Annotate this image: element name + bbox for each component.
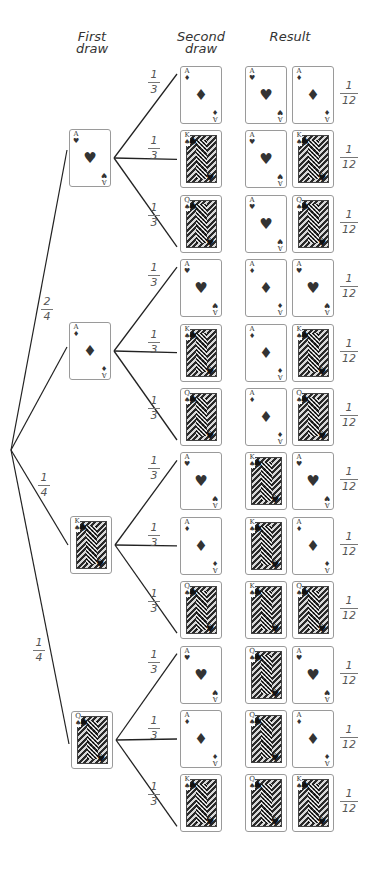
diamonds-icon: ♦ xyxy=(70,343,110,359)
branch-probability: 13 xyxy=(148,715,160,742)
card-index-bottom: A♦ xyxy=(212,752,218,766)
spades-icon: ♠ xyxy=(96,752,106,763)
card-a-hearts: A♥♥A♥ xyxy=(292,259,334,317)
denominator: 3 xyxy=(148,410,160,422)
card-index-bottom: A♥ xyxy=(101,171,107,185)
hearts-icon: ♥ xyxy=(246,87,286,103)
branch-line xyxy=(115,545,177,546)
hearts-icon: ♥ xyxy=(70,150,110,166)
card-index-bottom: A♥ xyxy=(212,301,218,315)
spades-icon: ♠ xyxy=(78,522,88,533)
numerator: 1 xyxy=(340,466,358,478)
spades-icon: ♠ xyxy=(253,458,263,469)
branch-line xyxy=(115,545,177,633)
numerator: 1 xyxy=(340,402,358,414)
card-index-bottom: A♥ xyxy=(277,108,283,122)
spades-icon: ♠ xyxy=(205,429,215,440)
card-k-spades: K♠♠♠ xyxy=(292,324,334,382)
card-index-top: A♦ xyxy=(296,68,302,82)
branch-probability: 13 xyxy=(148,395,160,422)
denominator: 3 xyxy=(148,150,160,162)
card-k-spades: K♠♠♠ xyxy=(292,130,334,188)
result-probability: 112 xyxy=(340,660,358,687)
numerator: 1 xyxy=(340,724,358,736)
hearts-icon: ♥ xyxy=(293,667,333,683)
denominator: 12 xyxy=(340,95,358,107)
branch-line xyxy=(115,460,177,545)
hearts-icon: ♥ xyxy=(293,280,333,296)
card-a-diamonds: A♦♦A♦ xyxy=(292,517,334,575)
spades-icon: ♠ xyxy=(188,201,198,212)
card-index-bottom: A♦ xyxy=(324,108,330,122)
diamonds-icon: ♦ xyxy=(246,345,286,361)
hearts-icon: ♥ xyxy=(246,216,286,232)
result-probability: 112 xyxy=(340,338,358,365)
denominator: 3 xyxy=(148,217,160,229)
numerator: 1 xyxy=(148,262,160,274)
card-index-bottom: A♦ xyxy=(277,366,283,380)
spades-icon: ♠ xyxy=(317,236,327,247)
numerator: 1 xyxy=(148,69,160,81)
denominator: 4 xyxy=(33,652,45,664)
card-index-bottom: A♥ xyxy=(212,494,218,508)
card-q-spades: Q♠♠♠ xyxy=(292,195,334,253)
denominator: 12 xyxy=(340,610,358,622)
card-q-spades: Q♠♠♠ xyxy=(245,710,287,768)
spades-icon: ♠ xyxy=(317,429,327,440)
diamonds-icon: ♦ xyxy=(246,280,286,296)
spades-icon: ♠ xyxy=(205,171,215,182)
card-a-hearts: A♥♥A♥ xyxy=(180,259,222,317)
card-a-diamonds: A♦♦A♦ xyxy=(245,388,287,446)
diamonds-icon: ♦ xyxy=(181,538,221,554)
spades-icon: ♠ xyxy=(188,136,198,147)
card-index-top: A♥ xyxy=(184,454,190,468)
diamonds-icon: ♦ xyxy=(181,87,221,103)
card-a-hearts: A♥♥A♥ xyxy=(292,646,334,704)
denominator: 3 xyxy=(148,277,160,289)
card-index-bottom: A♦ xyxy=(277,301,283,315)
result-probability: 112 xyxy=(340,531,358,558)
card-index-bottom: A♦ xyxy=(324,752,330,766)
card-index-top: A♥ xyxy=(249,132,255,146)
numerator: 1 xyxy=(340,788,358,800)
header-first-draw: First draw xyxy=(64,31,120,55)
branch-probability: 13 xyxy=(148,202,160,229)
card-k-spades: K♠♠♠ xyxy=(245,452,287,510)
result-probability: 112 xyxy=(340,402,358,429)
spades-icon: ♠ xyxy=(205,622,215,633)
card-q-spades: Q♠♠♠ xyxy=(180,388,222,446)
result-probability: 112 xyxy=(340,273,358,300)
card-q-spades: Q♠♠♠ xyxy=(180,581,222,639)
result-probability: 112 xyxy=(340,466,358,493)
spades-icon: ♠ xyxy=(270,687,280,698)
spades-icon: ♠ xyxy=(253,523,263,534)
diamonds-icon: ♦ xyxy=(293,538,333,554)
spades-icon: ♠ xyxy=(300,780,310,791)
result-probability: 112 xyxy=(340,144,358,171)
first-draw-probability: 14 xyxy=(38,472,50,499)
card-k-spades: K♠♠♠ xyxy=(180,324,222,382)
card-index-bottom: A♦ xyxy=(324,559,330,573)
spades-icon: ♠ xyxy=(300,330,310,341)
denominator: 12 xyxy=(340,546,358,558)
branch-line xyxy=(114,351,177,440)
spades-icon: ♠ xyxy=(188,394,198,405)
card-index-bottom: A♦ xyxy=(212,559,218,573)
denominator: 12 xyxy=(340,739,358,751)
card-k-spades: K♠♠♠ xyxy=(70,516,112,574)
card-a-hearts: A♥♥A♥ xyxy=(245,66,287,124)
card-index-top: A♦ xyxy=(249,390,255,404)
denominator: 3 xyxy=(148,664,160,676)
card-a-hearts: A♥♥A♥ xyxy=(245,195,287,253)
numerator: 1 xyxy=(340,80,358,92)
branch-line xyxy=(114,351,177,353)
card-a-diamonds: A♦♦A♦ xyxy=(180,517,222,575)
card-index-top: A♦ xyxy=(249,326,255,340)
branch-probability: 13 xyxy=(148,588,160,615)
numerator: 1 xyxy=(148,135,160,147)
hearts-icon: ♥ xyxy=(181,667,221,683)
card-q-spades: Q♠♠♠ xyxy=(245,646,287,704)
card-a-hearts: A♥♥A♥ xyxy=(69,129,111,187)
card-index-bottom: A♥ xyxy=(324,301,330,315)
branch-line xyxy=(116,739,177,740)
